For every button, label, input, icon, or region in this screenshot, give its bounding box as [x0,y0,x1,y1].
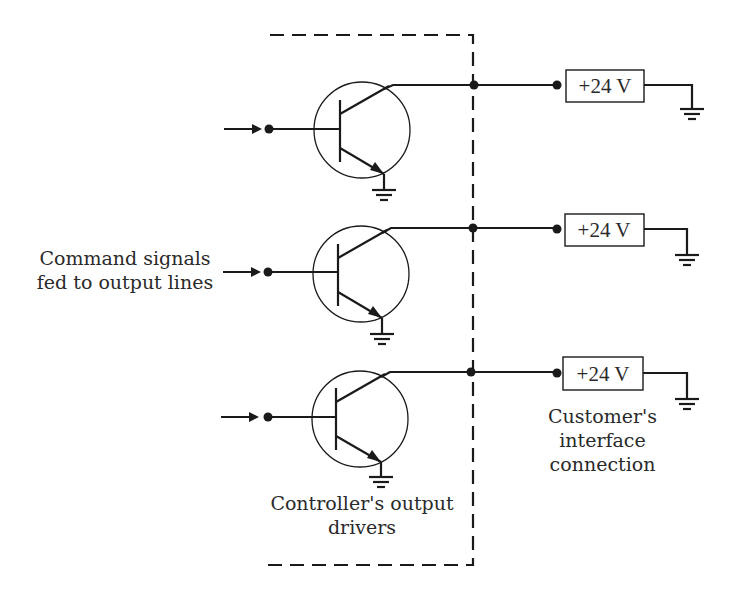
output-terminal-1 [553,81,562,90]
ground-icon [675,399,699,409]
ground-icon [370,318,394,344]
supply-label-1: +24 V [567,71,643,101]
ground-icon [675,255,699,265]
npn-transistor-icon [313,226,409,322]
junction-dot [469,224,478,233]
diagram-canvas: +24 V +24 V +24 V Command signals fed to… [0,0,737,589]
controller-drivers-label: Controller's output drivers [262,491,462,539]
output-terminal-3 [553,369,562,378]
controller-boundary [266,35,473,565]
junction-dot [467,368,476,377]
arrow-head-icon [249,412,259,422]
ground-icon [680,109,704,119]
customer-interface-label: Customer's interface connection [545,404,660,476]
npn-transistor-icon [312,371,408,467]
arrow-head-icon [252,124,262,134]
supply-label-3: +24 V [565,359,641,389]
ground-icon [372,174,396,200]
command-signals-label: Command signals fed to output lines [30,246,220,294]
junction-dot [470,81,479,90]
arrow-head-icon [251,267,261,277]
output-terminal-2 [553,225,562,234]
supply-label-2: +24 V [566,215,642,245]
